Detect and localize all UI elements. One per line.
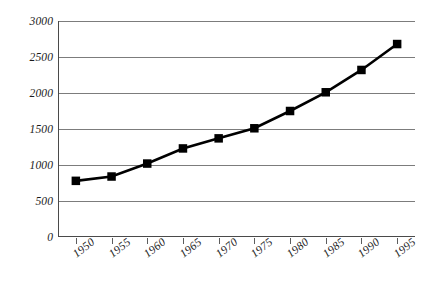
gridline bbox=[59, 165, 415, 166]
y-axis-tick-label: 1000 bbox=[7, 159, 53, 171]
x-axis-tick bbox=[254, 238, 255, 244]
plot-area bbox=[58, 21, 415, 237]
y-axis-tick-label: 2000 bbox=[7, 87, 53, 99]
x-axis-tick bbox=[219, 238, 220, 244]
x-axis-tick bbox=[326, 238, 327, 244]
x-axis-tick bbox=[290, 238, 291, 244]
x-axis-tick bbox=[147, 238, 148, 244]
x-axis-tick bbox=[112, 238, 113, 244]
gridline bbox=[59, 21, 415, 22]
y-axis-tick-label: 3000 bbox=[7, 15, 53, 27]
gridline bbox=[59, 57, 415, 58]
x-axis-tick bbox=[76, 238, 77, 244]
x-axis-tick-labels: 1950195519601965197019751980198519901995 bbox=[58, 249, 426, 286]
y-axis-tick-label: 1500 bbox=[7, 123, 53, 135]
y-axis-tick-label: 2500 bbox=[7, 51, 53, 63]
line-chart: 050010001500200025003000 195019551960196… bbox=[0, 0, 426, 286]
gridline bbox=[59, 129, 415, 130]
gridline bbox=[59, 93, 415, 94]
x-axis-tick bbox=[183, 238, 184, 244]
y-axis-tick-label: 0 bbox=[7, 231, 53, 243]
y-axis-tick-label: 500 bbox=[7, 195, 53, 207]
y-axis-tick-labels: 050010001500200025003000 bbox=[0, 0, 53, 286]
x-axis-tick bbox=[397, 238, 398, 244]
gridline bbox=[59, 201, 415, 202]
